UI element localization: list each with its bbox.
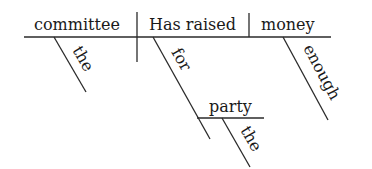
sentence-diagram: committee Has raised money the for party… [0, 0, 372, 169]
object-word: money [261, 15, 315, 34]
object-adjective-word: enough [299, 41, 344, 103]
prep-object-article-word: the [237, 123, 267, 155]
verb-word: Has raised [149, 15, 236, 34]
subject-word: committee [34, 15, 120, 34]
prep-object-word: party [209, 97, 252, 116]
